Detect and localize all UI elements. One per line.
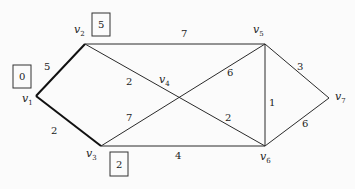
vertex-v7: v7 xyxy=(335,90,346,105)
svg-text:0: 0 xyxy=(19,71,25,82)
edge-v3-v5 xyxy=(101,44,265,146)
weight-v2-v5: 7 xyxy=(181,28,187,39)
distance-box-v3: 2 xyxy=(110,152,128,176)
weight-v6-v7: 6 xyxy=(302,118,308,129)
vertex-v3: v3 xyxy=(86,147,97,162)
weight-v5-v7: 3 xyxy=(297,61,303,72)
distance-box-v2: 5 xyxy=(92,13,110,36)
vertex-v2: v2 xyxy=(74,23,85,38)
weight-v1-v3: 2 xyxy=(51,125,57,136)
svg-text:2: 2 xyxy=(116,159,122,170)
weight-v1-v2: 5 xyxy=(44,61,50,72)
weight-v3-v4: 7 xyxy=(126,112,132,123)
weight-v5-v6: 1 xyxy=(269,97,275,108)
vertex-v6: v6 xyxy=(260,150,271,165)
weight-v2-v4: 2 xyxy=(126,76,132,87)
graph-diagram: 5 2 7 2 6 7 2 4 1 3 6 v1 v2 v3 v4 v5 v6 … xyxy=(0,0,355,189)
edge-v1-v3 xyxy=(36,96,101,146)
weight-v4-v6: 2 xyxy=(225,112,231,123)
vertex-v1: v1 xyxy=(22,92,33,107)
graph-svg: 5 2 7 2 6 7 2 4 1 3 6 v1 v2 v3 v4 v5 v6 … xyxy=(0,0,355,189)
weight-v3-v6: 4 xyxy=(175,150,181,161)
vertex-v4: v4 xyxy=(159,73,170,88)
edge-v2-v6 xyxy=(85,44,265,146)
weight-v4-v5: 6 xyxy=(227,67,233,78)
vertex-v5: v5 xyxy=(253,23,264,38)
distance-box-v1: 0 xyxy=(13,65,31,88)
svg-text:5: 5 xyxy=(98,19,104,30)
